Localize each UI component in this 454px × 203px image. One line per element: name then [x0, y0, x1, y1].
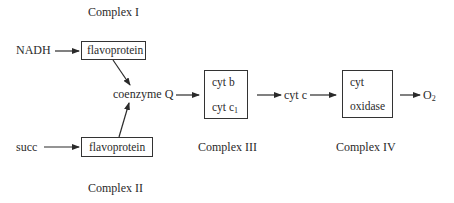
arrows-layer	[0, 0, 454, 203]
arrow-flavoprotein1-to-coq	[113, 60, 130, 85]
arrow-flavoprotein2-to-coq	[119, 103, 129, 137]
